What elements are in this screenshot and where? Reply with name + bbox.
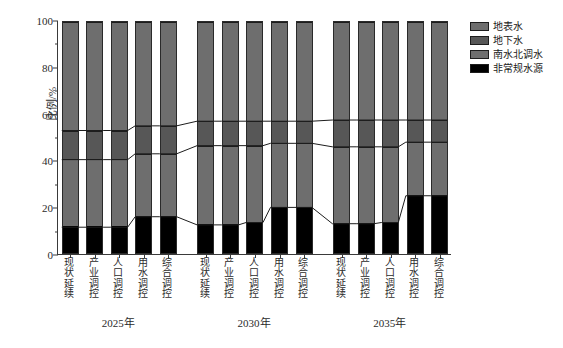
bar-group	[194, 21, 317, 254]
plot-area: 020406080100	[57, 21, 451, 255]
bar-slot	[267, 21, 292, 254]
y-tick-label: 40	[42, 155, 58, 167]
legend-item[interactable]: 地下水	[470, 34, 560, 47]
y-minor-tick-mark	[55, 231, 58, 232]
bar-segment	[359, 223, 374, 253]
bar-segment	[432, 195, 447, 253]
bar-segment	[247, 222, 262, 253]
y-minor-tick-mark	[55, 138, 58, 139]
bar-segment	[223, 121, 238, 145]
bar-segment	[383, 22, 398, 120]
stacked-bar[interactable]	[86, 21, 103, 254]
bar-segment	[198, 22, 213, 121]
stacked-bar[interactable]	[222, 21, 239, 254]
bar-slot	[156, 21, 181, 254]
bar-segment	[87, 22, 102, 131]
bar-segment	[161, 22, 176, 126]
legend-swatch	[470, 22, 489, 31]
legend-label: 南水北调水	[493, 49, 543, 60]
x-axis-label: 综合调控	[160, 258, 174, 300]
bar-segment	[63, 159, 78, 226]
y-minor-tick-mark	[55, 184, 58, 185]
bar-segment	[63, 22, 78, 131]
x-axis-label: 产业调控	[358, 258, 372, 300]
stacked-bar[interactable]	[197, 21, 214, 254]
bar-segment	[359, 147, 374, 223]
bar-segment	[297, 143, 312, 207]
bar-segment	[223, 146, 238, 225]
legend-label: 地下水	[493, 35, 523, 46]
stacked-bar[interactable]	[382, 21, 399, 254]
legend-item[interactable]: 南水北调水	[470, 48, 560, 61]
bar-segment	[272, 207, 287, 253]
x-axis-label: 人口调控	[383, 258, 397, 300]
bar-segment	[136, 154, 151, 216]
y-minor-tick-mark	[55, 44, 58, 45]
stacked-bar[interactable]	[333, 21, 350, 254]
legend-item[interactable]: 非常规水源	[470, 62, 560, 75]
x-axis-label: 用水调控	[272, 258, 286, 300]
stacked-bar[interactable]	[246, 21, 263, 254]
bar-segment	[136, 126, 151, 154]
stacked-bar[interactable]	[111, 21, 128, 254]
bar-segment	[87, 131, 102, 160]
bar-segment	[272, 121, 287, 143]
bar-segment	[408, 142, 423, 195]
bar-segment	[198, 224, 213, 253]
bar-slot	[403, 21, 428, 254]
stacked-bar[interactable]	[160, 21, 177, 254]
bar-segment	[272, 143, 287, 207]
bar-slot	[378, 21, 403, 254]
bar-segment	[112, 159, 127, 226]
bar-segment	[359, 22, 374, 120]
x-axis-label: 综合调控	[432, 258, 446, 300]
bar-segment	[334, 22, 349, 120]
bar-segment	[334, 120, 349, 147]
bar-segment	[198, 121, 213, 145]
bar-segment	[432, 120, 447, 142]
x-axis-label: 现状延续	[62, 258, 76, 300]
stacked-bar-chart: 比例/% 020406080100 现状延续产业调控人口调控用水调控综合调控现状…	[0, 0, 563, 348]
stacked-bar[interactable]	[296, 21, 313, 254]
bar-segment	[136, 22, 151, 126]
y-tick-label: 20	[42, 202, 58, 214]
bar-segment	[112, 22, 127, 131]
group-label: 2035年	[373, 314, 406, 330]
y-tick-label: 80	[42, 62, 58, 74]
x-axis-label: 综合调控	[296, 258, 310, 300]
bar-segment	[161, 216, 176, 253]
y-minor-tick-mark	[55, 91, 58, 92]
bar-segment	[247, 121, 262, 145]
legend-item[interactable]: 地表水	[470, 20, 560, 33]
bar-segment	[334, 147, 349, 223]
chart-legend: 地表水地下水南水北调水非常规水源	[470, 20, 560, 76]
bar-segment	[408, 195, 423, 253]
bar-slot	[58, 21, 83, 254]
stacked-bar[interactable]	[62, 21, 79, 254]
x-axis-label: 产业调控	[222, 258, 236, 300]
bar-slot	[292, 21, 317, 254]
y-tick-label: 60	[42, 109, 58, 121]
stacked-bar[interactable]	[135, 21, 152, 254]
bar-segment	[87, 226, 102, 253]
stacked-bar[interactable]	[431, 21, 448, 254]
x-axis-label: 产业调控	[87, 258, 101, 300]
bar-segment	[161, 154, 176, 216]
legend-label: 非常规水源	[493, 63, 543, 74]
bar-segment	[112, 226, 127, 253]
bar-segment	[247, 146, 262, 222]
x-axis-label: 现状延续	[198, 258, 212, 300]
x-axis-label: 用水调控	[136, 258, 150, 300]
bar-segment	[383, 120, 398, 147]
bar-slot	[218, 21, 243, 254]
bar-segment	[63, 131, 78, 160]
bar-segment	[223, 22, 238, 121]
stacked-bar[interactable]	[358, 21, 375, 254]
legend-swatch	[470, 36, 489, 45]
legend-swatch	[470, 50, 489, 59]
bar-segment	[359, 120, 374, 147]
legend-swatch	[470, 64, 489, 73]
stacked-bar[interactable]	[407, 21, 424, 254]
stacked-bar[interactable]	[271, 21, 288, 254]
bar-segment	[383, 222, 398, 253]
